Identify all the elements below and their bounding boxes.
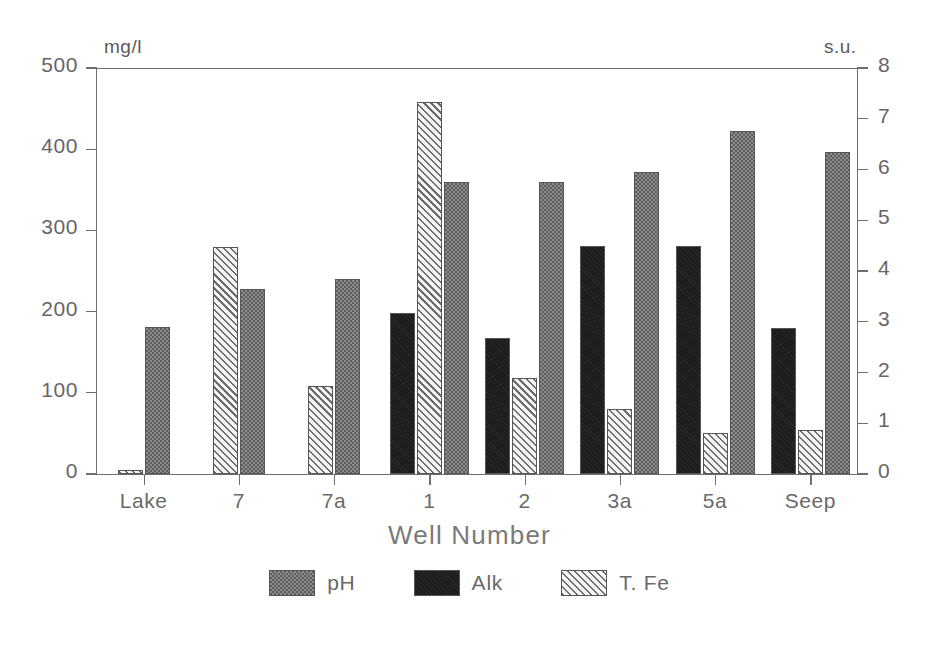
x-tick-mark [239, 475, 240, 485]
x-axis-title: Well Number [0, 520, 939, 551]
legend-item[interactable]: T. Fe [561, 570, 670, 596]
legend-label: Alk [472, 571, 504, 595]
right-tick-mark [857, 169, 868, 170]
right-tick-label: 2 [878, 358, 926, 382]
legend-item[interactable]: Alk [414, 570, 504, 596]
bar [607, 409, 632, 474]
bar [240, 289, 265, 474]
left-tick-label: 100 [16, 378, 78, 402]
bar [798, 430, 823, 474]
bar [825, 152, 850, 474]
right-tick-label: 4 [878, 256, 926, 280]
right-tick-label: 7 [878, 104, 926, 128]
bar [335, 279, 360, 474]
legend-item[interactable]: pH [269, 570, 355, 596]
legend-label: pH [327, 571, 355, 595]
x-tick-mark [715, 475, 716, 485]
x-tick-mark [144, 475, 145, 485]
right-tick-label: 0 [878, 459, 926, 483]
bottom-axis-line [96, 474, 859, 475]
x-tick-mark [620, 475, 621, 485]
chart-legend: pHAlkT. Fe [0, 570, 939, 596]
x-tick-mark [429, 475, 430, 485]
x-category-label: Seep [750, 489, 870, 513]
bar [417, 102, 442, 474]
right-tick-label: 8 [878, 53, 926, 77]
right-tick-mark [857, 67, 868, 68]
x-tick-mark [810, 475, 811, 485]
bar [213, 247, 238, 474]
bar [580, 246, 605, 474]
x-tick-mark [525, 475, 526, 485]
right-tick-label: 1 [878, 408, 926, 432]
legend-label: T. Fe [619, 571, 670, 595]
bar [512, 378, 537, 474]
bar [539, 182, 564, 474]
left-tick-label: 200 [16, 297, 78, 321]
bar [390, 313, 415, 474]
bar [730, 131, 755, 474]
legend-swatch-icon [561, 570, 607, 596]
right-tick-mark [857, 118, 868, 119]
bar [308, 386, 333, 474]
bar [444, 182, 469, 474]
right-tick-mark [857, 220, 868, 221]
bar-chart: mg/l s.u. 0100200300400500 012345678 Lak… [0, 0, 939, 648]
right-axis-unit-label: s.u. [824, 36, 857, 58]
left-tick-label: 300 [16, 215, 78, 239]
left-tick-label: 0 [16, 459, 78, 483]
right-tick-mark [857, 423, 868, 424]
legend-swatch-icon [269, 570, 315, 596]
legend-swatch-icon [414, 570, 460, 596]
bar [771, 328, 796, 474]
right-tick-mark [857, 473, 868, 474]
bar [676, 246, 701, 474]
right-tick-label: 6 [878, 155, 926, 179]
right-tick-mark [857, 270, 868, 271]
right-tick-mark [857, 321, 868, 322]
right-tick-label: 3 [878, 307, 926, 331]
right-tick-label: 5 [878, 205, 926, 229]
bar [485, 338, 510, 474]
bars-layer [96, 68, 858, 474]
x-tick-mark [334, 475, 335, 485]
bar [634, 172, 659, 474]
left-tick-label: 400 [16, 134, 78, 158]
right-tick-mark [857, 372, 868, 373]
bar [145, 327, 170, 474]
bar [703, 433, 728, 474]
bar [118, 470, 143, 474]
left-axis-unit-label: mg/l [104, 36, 142, 58]
left-tick-label: 500 [16, 53, 78, 77]
